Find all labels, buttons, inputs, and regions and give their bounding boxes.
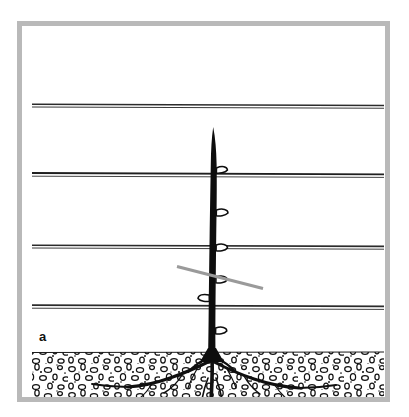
trellis-wire-4: [32, 305, 384, 309]
trellis-wire-3: [32, 245, 384, 249]
bud-1-right: [216, 167, 227, 174]
diagram-canvas: [22, 26, 385, 397]
bud-3-right: [216, 244, 227, 251]
trellis-wires: [32, 104, 384, 309]
bud-2-right: [216, 209, 228, 216]
trellis-wire-2: [32, 173, 384, 177]
trellis-wire-1: [32, 104, 384, 108]
bud-6-right: [216, 327, 227, 334]
figure-frame: a: [17, 21, 390, 402]
bud-5-left: [198, 294, 209, 301]
panel-letter-label: a: [39, 330, 46, 343]
figure-stage: a Young grapevine trunk trained on a fou…: [0, 0, 409, 417]
pruning-cut-line: [177, 267, 263, 289]
